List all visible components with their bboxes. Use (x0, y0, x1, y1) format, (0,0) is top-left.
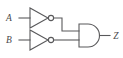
not-gate-b-triangle (30, 30, 48, 50)
and-gate-body (79, 24, 100, 47)
circuit-canvas: A B Z (0, 0, 123, 58)
logic-circuit-figure: A B Z (0, 0, 123, 58)
not-gate-a-bubble-icon (48, 15, 53, 20)
label-input-a: A (5, 13, 12, 23)
not-gate-a-triangle (30, 8, 48, 28)
label-input-b: B (6, 35, 12, 45)
not-gate-b-bubble-icon (48, 37, 53, 42)
label-output-z: Z (113, 31, 119, 41)
wire-not-a-to-and (54, 18, 79, 31)
